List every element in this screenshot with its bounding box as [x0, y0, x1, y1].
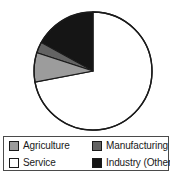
pie-chart-figure: Agriculture Manufacturing Service Indust… — [0, 0, 173, 173]
legend-item-manufacturing[interactable]: Manufacturing — [87, 137, 170, 154]
pie-svg — [0, 0, 173, 134]
legend-item-agriculture[interactable]: Agriculture — [4, 137, 87, 154]
chart-legend: Agriculture Manufacturing Service Indust… — [3, 136, 169, 171]
legend-label-industry-other: Industry (Other) — [106, 157, 170, 168]
pie-plot-area — [0, 0, 173, 134]
legend-label-service: Service — [23, 157, 56, 168]
legend-label-agriculture: Agriculture — [23, 140, 70, 151]
service-swatch — [9, 158, 19, 168]
legend-item-service[interactable]: Service — [4, 154, 87, 171]
manufacturing-swatch — [92, 141, 102, 151]
industry-other-swatch — [92, 158, 102, 168]
legend-item-industry-other[interactable]: Industry (Other) — [87, 154, 170, 171]
legend-grid: Agriculture Manufacturing Service Indust… — [4, 137, 168, 170]
legend-label-manufacturing: Manufacturing — [106, 140, 168, 151]
agriculture-swatch — [9, 141, 19, 151]
